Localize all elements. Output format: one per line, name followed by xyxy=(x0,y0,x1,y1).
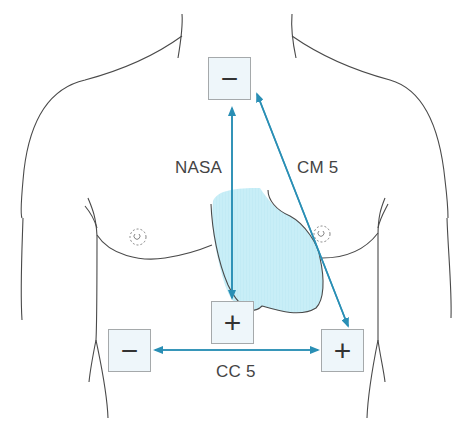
nasa-lead-label: NASA xyxy=(175,158,222,178)
electrode-xiphoid-positive: + xyxy=(211,301,254,344)
heart-silhouette xyxy=(211,188,323,313)
ecg-lead-diagram: − + − + NASA CM 5 CC 5 xyxy=(0,0,468,433)
cm5-lead-label: CM 5 xyxy=(297,158,338,178)
electrode-v5-positive: + xyxy=(321,329,364,372)
electrode-manubrium-negative: − xyxy=(208,57,251,100)
cc5-lead-label: CC 5 xyxy=(216,362,256,382)
neck-outline xyxy=(178,14,296,58)
electrode-right-negative: − xyxy=(108,329,151,372)
